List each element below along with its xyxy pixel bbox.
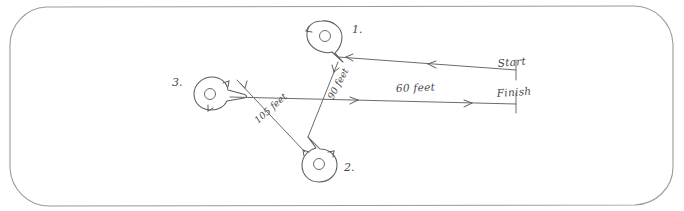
distance-90-label: 90 feet: [325, 66, 351, 101]
start-label: Start: [497, 55, 527, 69]
course-diagram-svg: 1. 3. 2. Start: [0, 0, 684, 211]
point-1-center: [320, 31, 331, 42]
point-3-center: [205, 89, 216, 100]
distance-60-label: 60 feet: [396, 81, 436, 94]
point-1-label: 1.: [352, 23, 363, 36]
distance-105-line: [237, 80, 305, 152]
point-2-center: [314, 159, 325, 170]
point-3-label: 3.: [172, 76, 183, 89]
start-line: [338, 54, 516, 80]
point-2-label: 2.: [343, 161, 355, 174]
course-diagram-canvas: 1. 3. 2. Start: [0, 0, 684, 211]
point-2-marker: [302, 137, 337, 182]
finish-label: Finish: [495, 85, 531, 99]
distance-105-label: 105 feet: [252, 91, 289, 126]
point-1-marker: [306, 21, 343, 62]
